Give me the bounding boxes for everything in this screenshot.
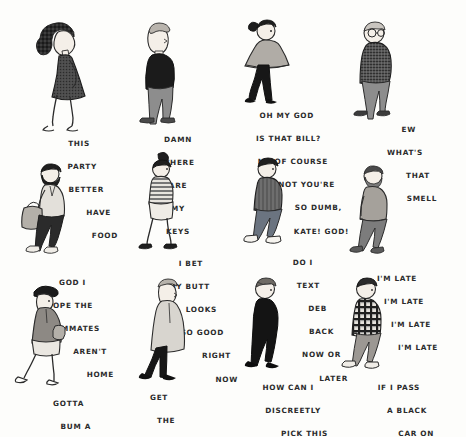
figure-panel-6: I BET MY BUTT LOOKS SO GOOD RIGHT NOW bbox=[133, 150, 243, 290]
drawing-woman-topknot-striped-shirt bbox=[133, 150, 233, 260]
drawing-person-long-light-coat bbox=[138, 276, 238, 388]
figure-panel-10: GET THE HELL OUTTA MY WAY bbox=[138, 276, 248, 431]
comic-illustration: THIS PARTY BETTER HAVE FOOD DAMN bbox=[0, 0, 466, 437]
drawing-bearded-man-with-shoulder-bag bbox=[14, 160, 119, 272]
figure-panel-8: I'M LATE I'M LATE I'M LATE I'M LATE bbox=[345, 163, 463, 293]
drawing-woman-beret-grey-coat bbox=[14, 282, 119, 392]
caption-10: GET THE HELL OUTTA MY WAY bbox=[150, 380, 248, 437]
figure-panel-7: DO I TEXT DEB BACK NOW OR LATER bbox=[243, 155, 358, 290]
caption-12: IF I PASS A BLACK CAR ON THIS BLOCK, I'L… bbox=[340, 370, 462, 437]
figure-panel-4: EW WHAT'S THAT SMELL bbox=[350, 18, 462, 143]
drawing-woman-curly-hair-dark-dress bbox=[18, 18, 128, 133]
figure-panel-5: GOD I HOPE THE ROOMMATES AREN'T HOME bbox=[14, 160, 126, 290]
drawing-man-plaid-shirt-grey-jeans bbox=[340, 276, 440, 381]
figure-panel-9: GOTTA BUM A SMOKE FROM TIM bbox=[14, 282, 126, 432]
caption-9: GOTTA BUM A SMOKE FROM TIM bbox=[22, 386, 126, 437]
figure-panel-12: IF I PASS A BLACK CAR ON THIS BLOCK, I'L… bbox=[340, 276, 464, 431]
drawing-person-all-black-outfit bbox=[240, 276, 345, 381]
figure-panel-1: THIS PARTY BETTER HAVE FOOD bbox=[18, 18, 128, 143]
figure-panel-2: DAMN WHERE ARE MY KEYS bbox=[128, 18, 238, 143]
drawing-bearded-man-grey-sweatshirt bbox=[345, 163, 445, 268]
drawing-older-man-glasses-textured-sweater bbox=[350, 18, 450, 123]
drawing-man-black-sweater-grey-pants bbox=[128, 18, 238, 130]
figure-panel-3: OH MY GOD IS THAT BILL? NO OF COURSE NOT… bbox=[240, 14, 360, 144]
